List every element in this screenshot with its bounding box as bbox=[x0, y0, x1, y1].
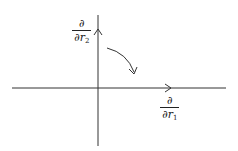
horizontal-label-subscript: 1 bbox=[173, 114, 177, 122]
vertical-label-denominator: ∂r bbox=[74, 31, 85, 44]
vertical-axis-label: ∂ ∂r2 bbox=[72, 18, 91, 45]
rotation-arrow-icon bbox=[107, 48, 134, 72]
vertical-label-numerator: ∂ bbox=[77, 18, 87, 30]
vertical-label-subscript: 2 bbox=[85, 37, 89, 45]
horizontal-axis-label: ∂ ∂r1 bbox=[160, 95, 179, 122]
horizontal-label-denominator: ∂r bbox=[162, 108, 173, 121]
axes-diagram bbox=[0, 0, 238, 151]
horizontal-label-numerator: ∂ bbox=[165, 95, 175, 107]
